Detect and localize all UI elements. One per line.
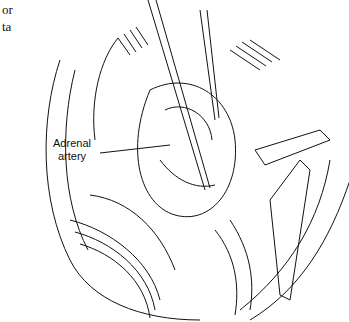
surgical-illustration bbox=[0, 0, 349, 322]
label-leader-line bbox=[100, 145, 170, 153]
